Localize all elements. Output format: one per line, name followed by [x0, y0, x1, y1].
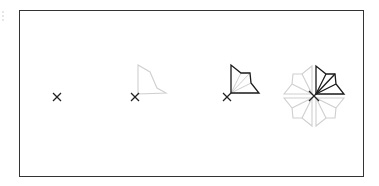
stage-3-kite-dark [223, 65, 259, 101]
stage-1-origin-icon [53, 93, 61, 101]
stage-2-kite-faint [131, 65, 166, 101]
diagram-canvas [0, 0, 379, 186]
stage-4-symmetric-kites [284, 66, 344, 126]
